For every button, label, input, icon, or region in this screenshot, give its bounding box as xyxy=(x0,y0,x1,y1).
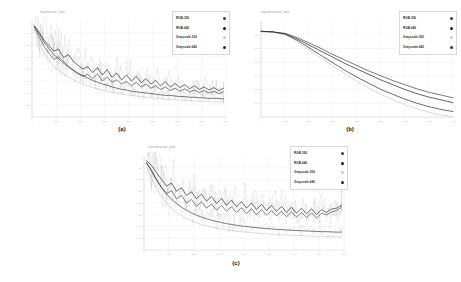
legend-color-dot-icon xyxy=(450,46,453,49)
legend-color-dot-icon xyxy=(450,36,453,39)
svg-text:0.35: 0.35 xyxy=(137,167,142,169)
svg-text:0.10: 0.10 xyxy=(137,225,142,227)
legend-item[interactable]: RGB-640 xyxy=(176,25,226,32)
svg-text:0.14: 0.14 xyxy=(254,75,259,77)
svg-text:6000: 6000 xyxy=(175,120,181,122)
svg-text:0.02: 0.02 xyxy=(25,104,30,106)
legend-item[interactable]: Grayscale-640 xyxy=(403,44,453,51)
svg-text:0: 0 xyxy=(260,120,262,122)
svg-text:0.05: 0.05 xyxy=(137,237,142,239)
svg-text:2000: 2000 xyxy=(307,120,313,122)
svg-text:0.15: 0.15 xyxy=(137,214,142,216)
svg-text:3000: 3000 xyxy=(331,120,337,122)
legend-item-label: RGB-300 xyxy=(403,17,416,20)
panel-a-title: localization_loss xyxy=(40,11,65,14)
svg-text:0: 0 xyxy=(143,253,145,255)
legend-item-label: RGB-640 xyxy=(176,27,189,30)
svg-text:3000: 3000 xyxy=(217,253,223,255)
panel-b-caption: (b) xyxy=(243,126,457,132)
panel-b-legend: RGB-300RGB-640Grayscale-300Grayscale-640 xyxy=(399,11,457,55)
svg-text:1000: 1000 xyxy=(167,253,173,255)
svg-text:3000: 3000 xyxy=(102,120,108,122)
panel-b-title: regularization_loss xyxy=(261,11,289,14)
svg-text:5000: 5000 xyxy=(267,253,273,255)
legend-item[interactable]: RGB-300 xyxy=(294,150,344,157)
legend-item-label: Grayscale-300 xyxy=(176,36,197,39)
legend-color-dot-icon xyxy=(341,171,344,174)
svg-text:8000: 8000 xyxy=(342,253,348,255)
legend-item[interactable]: Grayscale-300 xyxy=(403,34,453,41)
legend-item[interactable]: Grayscale-300 xyxy=(176,34,226,41)
legend-color-dot-icon xyxy=(223,17,226,20)
svg-text:5000: 5000 xyxy=(151,120,157,122)
svg-text:0.08: 0.08 xyxy=(25,68,30,70)
svg-text:8000: 8000 xyxy=(451,120,457,122)
svg-text:7000: 7000 xyxy=(317,253,323,255)
legend-item-label: RGB-300 xyxy=(294,152,307,155)
svg-text:0.06: 0.06 xyxy=(25,80,30,82)
legend-item[interactable]: Grayscale-640 xyxy=(294,179,344,186)
svg-text:2000: 2000 xyxy=(192,253,198,255)
panel-a: localization_loss 0100020003000400050006… xyxy=(14,8,230,140)
legend-item-label: Grayscale-640 xyxy=(294,181,315,184)
panel-c-title: classification_loss xyxy=(148,146,175,149)
svg-text:0.10: 0.10 xyxy=(254,102,259,104)
svg-text:6000: 6000 xyxy=(292,253,298,255)
svg-text:0.14: 0.14 xyxy=(25,32,30,34)
svg-text:0.12: 0.12 xyxy=(25,44,30,46)
svg-text:5000: 5000 xyxy=(379,120,385,122)
svg-text:7000: 7000 xyxy=(427,120,433,122)
panel-a-legend: RGB-300RGB-640Grayscale-300Grayscale-640 xyxy=(172,11,230,55)
svg-text:4000: 4000 xyxy=(355,120,361,122)
legend-item-label: Grayscale-300 xyxy=(294,171,315,174)
legend-item[interactable]: RGB-640 xyxy=(403,25,453,32)
svg-text:2000: 2000 xyxy=(78,120,84,122)
legend-color-dot-icon xyxy=(450,27,453,30)
legend-item-label: Grayscale-640 xyxy=(403,46,424,49)
legend-item-label: RGB-300 xyxy=(176,17,189,20)
legend-item[interactable]: Grayscale-300 xyxy=(294,169,344,176)
legend-color-dot-icon xyxy=(341,181,344,184)
legend-item[interactable]: RGB-300 xyxy=(403,15,453,22)
svg-text:0.10: 0.10 xyxy=(25,56,30,58)
svg-text:1000: 1000 xyxy=(54,120,60,122)
legend-color-dot-icon xyxy=(223,27,226,30)
svg-text:0.04: 0.04 xyxy=(25,92,30,94)
legend-item-label: RGB-640 xyxy=(294,162,307,165)
svg-text:6000: 6000 xyxy=(403,120,409,122)
legend-item-label: Grayscale-640 xyxy=(176,46,197,49)
svg-text:8000: 8000 xyxy=(224,120,230,122)
svg-text:4000: 4000 xyxy=(127,120,133,122)
legend-color-dot-icon xyxy=(341,162,344,165)
svg-text:0.12: 0.12 xyxy=(254,88,259,90)
svg-text:4000: 4000 xyxy=(242,253,248,255)
legend-item-label: RGB-640 xyxy=(403,27,416,30)
svg-text:1000: 1000 xyxy=(283,120,289,122)
svg-text:0: 0 xyxy=(31,120,33,122)
legend-color-dot-icon xyxy=(450,17,453,20)
panel-a-caption: (a) xyxy=(14,126,230,132)
legend-color-dot-icon xyxy=(223,46,226,49)
svg-text:0.20: 0.20 xyxy=(137,202,142,204)
legend-color-dot-icon xyxy=(341,152,344,155)
legend-item-label: Grayscale-300 xyxy=(403,36,424,39)
panel-c-caption: (c) xyxy=(124,260,348,266)
panel-b: regularization_loss 01000200030004000500… xyxy=(243,8,457,140)
panel-c: classification_loss 01000200030004000500… xyxy=(124,144,348,278)
legend-color-dot-icon xyxy=(223,36,226,39)
svg-text:0.30: 0.30 xyxy=(137,178,142,180)
panel-c-legend: RGB-300RGB-640Grayscale-300Grayscale-640 xyxy=(290,146,348,190)
svg-text:0.18: 0.18 xyxy=(254,47,259,49)
legend-item[interactable]: RGB-300 xyxy=(176,15,226,22)
svg-text:0.25: 0.25 xyxy=(137,190,142,192)
legend-item[interactable]: Grayscale-640 xyxy=(176,44,226,51)
svg-text:0.16: 0.16 xyxy=(254,61,259,63)
legend-item[interactable]: RGB-640 xyxy=(294,160,344,167)
svg-text:0.20: 0.20 xyxy=(254,34,259,36)
svg-text:7000: 7000 xyxy=(199,120,205,122)
